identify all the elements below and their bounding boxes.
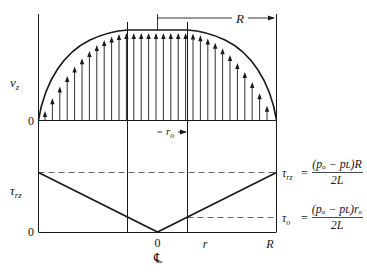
arrowhead-icon xyxy=(161,33,165,39)
arrowhead-icon xyxy=(191,33,195,39)
svg-text:(pₒ − pʟ)R: (pₒ − pʟ)R xyxy=(312,157,362,171)
arrowhead-icon xyxy=(72,66,76,72)
svg-text:2L: 2L xyxy=(331,218,344,232)
arrowhead-icon xyxy=(80,58,84,64)
centerline-symbol: ℄ xyxy=(153,250,163,265)
radius-label: R xyxy=(235,11,244,26)
arrowhead-icon xyxy=(265,106,269,112)
arrowhead-icon xyxy=(213,43,217,49)
stress-distribution xyxy=(39,173,277,233)
arrowhead-icon xyxy=(250,82,254,88)
arrowhead-icon xyxy=(198,35,202,41)
arrowhead-icon xyxy=(220,48,224,54)
arrowhead-icon xyxy=(50,98,54,104)
svg-text:(pₒ − pʟ)rₒ: (pₒ − pʟ)rₒ xyxy=(312,202,363,216)
bingham-flow-diagram: R ro vz 0 τrz 0 0 ℄ r R τrz = (pₒ − pʟ)R… xyxy=(0,0,367,274)
r-axis-label: r xyxy=(203,237,208,251)
arrowhead-icon xyxy=(154,33,158,39)
arrowhead-icon xyxy=(257,93,261,99)
svg-text:=: = xyxy=(301,166,308,180)
arrowhead-icon xyxy=(58,87,62,93)
axes xyxy=(39,14,277,233)
arrowhead-icon xyxy=(43,111,47,117)
svg-text:2L: 2L xyxy=(331,173,344,187)
arrowhead-icon xyxy=(87,51,91,57)
svg-text:ro: ro xyxy=(166,125,174,140)
arrowhead-icon xyxy=(243,72,247,78)
svg-text:τo: τo xyxy=(282,211,290,227)
arrowhead-icon xyxy=(235,63,239,69)
arrowhead-icon xyxy=(109,36,113,42)
radius-dimension: R xyxy=(158,11,275,30)
arrowhead-icon xyxy=(65,76,69,82)
arrowhead-icon xyxy=(206,38,210,44)
svg-text:τrz: τrz xyxy=(282,166,293,182)
center-tick-label: 0 xyxy=(155,236,161,250)
arrowhead-icon xyxy=(117,34,121,40)
yield-stress-equation: τo = (pₒ − pʟ)rₒ 2L xyxy=(282,202,363,232)
arrowhead-icon xyxy=(132,33,136,39)
arrowhead-icon xyxy=(146,33,150,39)
wall-stress-equation: τrz = (pₒ − pʟ)R 2L xyxy=(282,157,363,187)
velocity-zero-label: 0 xyxy=(28,114,34,128)
arrowhead-icon xyxy=(95,45,99,51)
stress-dashed-lines xyxy=(39,173,277,218)
R-axis-label: R xyxy=(265,237,274,251)
arrowhead-icon xyxy=(176,33,180,39)
stress-axis-label: τrz xyxy=(10,183,22,200)
velocity-axis-label: vz xyxy=(10,75,20,92)
arrowhead-icon xyxy=(169,33,173,39)
arrowhead-icon xyxy=(139,33,143,39)
svg-text:=: = xyxy=(301,211,308,225)
plug-radius-dimension: ro xyxy=(158,125,187,140)
arrowhead-icon xyxy=(102,40,106,46)
stress-zero-label: 0 xyxy=(28,225,34,239)
arrowhead-icon xyxy=(228,55,232,61)
